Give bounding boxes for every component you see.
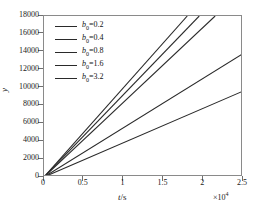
legend-item: b0=1.6 bbox=[55, 59, 104, 71]
legend-line-swatch bbox=[55, 39, 77, 40]
y-tick-label: 16000 bbox=[19, 29, 39, 37]
x-tick-label: 0.5 bbox=[68, 178, 98, 187]
multiplier-base: ×10 bbox=[213, 193, 226, 202]
y-tick-label: 4000 bbox=[23, 136, 39, 144]
legend-value: =0.4 bbox=[89, 33, 104, 42]
multiplier-exponent: 4 bbox=[226, 191, 229, 197]
legend-label: b0=1.6 bbox=[82, 60, 104, 71]
y-tick-label: 2000 bbox=[23, 154, 39, 162]
data-line-5 bbox=[44, 91, 242, 176]
y-tick-label: 14000 bbox=[19, 47, 39, 55]
x-tick-label: 1 bbox=[108, 178, 138, 187]
legend-value: =3.2 bbox=[89, 72, 104, 81]
legend-line-swatch bbox=[55, 52, 77, 53]
x-axis-title-unit: /s bbox=[121, 192, 127, 202]
legend-item: b0=0.8 bbox=[55, 46, 104, 58]
y-tick-label: 12000 bbox=[19, 65, 39, 73]
x-axis-title: t/s bbox=[118, 192, 127, 202]
legend-line-swatch bbox=[55, 78, 77, 79]
legend-value: =0.8 bbox=[89, 46, 104, 55]
y-axis-title: y bbox=[0, 88, 9, 92]
legend-item: b0=0.2 bbox=[55, 20, 104, 32]
legend-value: =1.6 bbox=[89, 59, 104, 68]
y-tick-label: 8000 bbox=[23, 100, 39, 108]
legend-item: b0=3.2 bbox=[55, 72, 104, 84]
legend: b0=0.2b0=0.4b0=0.8b0=1.6b0=3.2 bbox=[55, 20, 104, 84]
legend-label: b0=3.2 bbox=[82, 73, 104, 84]
legend-value: =0.2 bbox=[89, 20, 104, 29]
legend-item: b0=0.4 bbox=[55, 33, 104, 45]
legend-label: b0=0.4 bbox=[82, 34, 104, 45]
x-tick-label: 2.5 bbox=[227, 178, 257, 187]
legend-label: b0=0.2 bbox=[82, 21, 104, 32]
figure-container: y 02000400060008000100001200014000160001… bbox=[0, 0, 258, 218]
y-tick-label: 18000 bbox=[19, 11, 39, 19]
legend-label: b0=0.8 bbox=[82, 47, 104, 58]
y-tick-label: 10000 bbox=[19, 83, 39, 91]
legend-line-swatch bbox=[55, 26, 77, 27]
x-tick-label: 2 bbox=[187, 178, 217, 187]
legend-line-swatch bbox=[55, 65, 77, 66]
x-tick-label: 0 bbox=[28, 178, 58, 187]
y-tick-label: 6000 bbox=[23, 118, 39, 126]
x-axis-multiplier: ×104 bbox=[213, 191, 229, 202]
x-tick-label: 1.5 bbox=[147, 178, 177, 187]
